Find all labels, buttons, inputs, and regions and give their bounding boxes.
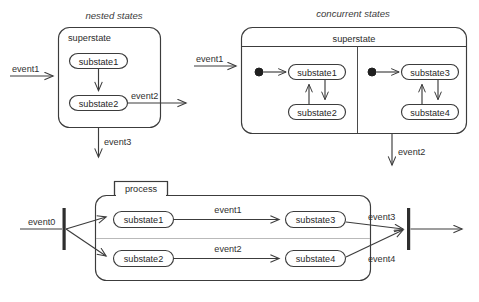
concurrent-substate2-label: substate2 — [297, 108, 336, 118]
process-join-bar[interactable] — [407, 208, 410, 250]
nested-event3-label: event3 — [104, 137, 131, 147]
process-panel: process substate1 substate2 substate3 su… — [20, 182, 462, 281]
nested-incoming-event-label: event1 — [12, 64, 39, 74]
caption-concurrent-states: concurrent states — [316, 8, 390, 19]
process-incoming-event-label: event0 — [28, 217, 55, 227]
concurrent-initial-state-left — [255, 68, 263, 76]
diagram-canvas: nested states superstate substate1 subst… — [0, 0, 479, 302]
nested-substate1-label: substate1 — [79, 57, 118, 67]
process-substate2-label: substate2 — [124, 254, 163, 264]
process-event3-label: event3 — [368, 212, 395, 222]
nested-superstate-title: superstate — [68, 33, 111, 43]
concurrent-initial-state-right — [368, 68, 376, 76]
uml-state-diagram: nested states superstate substate1 subst… — [0, 0, 479, 302]
process-tab-label: process — [125, 184, 158, 194]
concurrent-substate3-label: substate3 — [410, 68, 449, 78]
process-fork-bar[interactable] — [63, 208, 66, 250]
nested-states-panel: superstate substate1 substate2 event1 ev… — [10, 28, 186, 158]
process-substate1-label: substate1 — [124, 215, 163, 225]
process-event1-label: event1 — [214, 205, 241, 215]
concurrent-incoming-event-label: event1 — [196, 54, 223, 64]
process-tab-overlap — [116, 194, 166, 197]
concurrent-event2-label: event2 — [398, 147, 425, 157]
concurrent-states-panel: superstate substate1 substate2 substate3… — [194, 28, 467, 166]
concurrent-substate1-label: substate1 — [297, 68, 336, 78]
caption-nested-states: nested states — [85, 10, 142, 21]
nested-event2-label: event2 — [131, 91, 158, 101]
concurrent-superstate-title: superstate — [333, 34, 376, 44]
process-substate3-label: substate3 — [296, 215, 335, 225]
concurrent-substate4-label: substate4 — [410, 108, 449, 118]
process-substate4-label: substate4 — [296, 254, 335, 264]
process-event4-label: event4 — [368, 254, 395, 264]
process-event2-label: event2 — [214, 244, 241, 254]
nested-substate2-label: substate2 — [79, 99, 118, 109]
